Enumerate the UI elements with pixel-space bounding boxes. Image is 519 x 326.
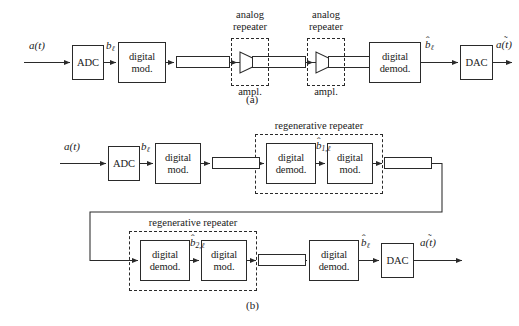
signal-output-a: ̃a(t)	[496, 38, 512, 50]
analog-repeater-1-title-line1: analog	[214, 9, 286, 21]
signal-b1hat: ̂b1,ℓ	[316, 139, 330, 153]
signal-badc-a: bℓ	[106, 39, 115, 53]
panel-b-caption: (b)	[246, 299, 259, 311]
dac-block-a[interactable]: DAC	[460, 45, 493, 80]
signal-output-a-text: a(t)	[496, 38, 512, 50]
repeater1-mod-line1-b: digital	[337, 152, 363, 164]
panel-a-caption: (a)	[246, 93, 258, 105]
channel-3-b	[258, 254, 306, 266]
repeater1-demod-block-b[interactable]: digital demod.	[266, 143, 316, 184]
signal-output-b-text: a(t)	[420, 236, 436, 248]
signal-b2hat-text: b	[190, 236, 196, 248]
channel-1-a	[176, 56, 230, 68]
channel-2-b	[384, 157, 432, 169]
digital-mod-block-a[interactable]: digital mod.	[118, 42, 166, 83]
signal-bhat-a: ̂bℓ	[425, 38, 434, 52]
signal-output-b: ̃a(t)	[420, 236, 436, 248]
digital-demod-rx-block-b[interactable]: digital demod.	[309, 240, 359, 281]
repeater1-mod-line2-b: mod.	[337, 164, 363, 176]
digital-mod-label-line2-a: mod.	[129, 63, 155, 75]
repeater1-demod-line2-b: demod.	[276, 164, 307, 176]
signal-b2hat-sub: 2,ℓ	[196, 241, 205, 250]
adc-block-a[interactable]: ADC	[72, 45, 104, 80]
repeater2-mod-line2-b: mod.	[211, 261, 237, 273]
digital-demod-label-line2-a: demod.	[380, 63, 411, 75]
signal-bhat-b-text: b	[361, 236, 367, 248]
repeater1-demod-line1-b: digital	[276, 152, 307, 164]
signal-input-b-text: a(t)	[64, 140, 80, 152]
repeater2-mod-line1-b: digital	[211, 249, 237, 261]
signal-b1hat-text: b	[316, 139, 322, 151]
channel-1-b	[212, 157, 260, 169]
dac-label-a: DAC	[466, 57, 488, 69]
regenerative-repeater-2-title: regenerative repeater	[129, 217, 257, 229]
figure-canvas: ADC digital mod. analog repeater analog …	[0, 0, 519, 326]
signal-b1hat-sub: 1,ℓ	[322, 144, 331, 153]
repeater1-mod-block-b[interactable]: digital mod.	[327, 143, 373, 184]
repeater2-demod-block-b[interactable]: digital demod.	[140, 240, 190, 281]
analog-repeater-1-box	[231, 38, 269, 86]
signal-badc-b-sub: ℓ	[147, 145, 150, 154]
repeater2-mod-block-b[interactable]: digital mod.	[201, 240, 247, 281]
adc-block-b[interactable]: ADC	[108, 146, 140, 181]
digital-demod-label-line1-a: digital	[380, 51, 411, 63]
digital-demod-block-a[interactable]: digital demod.	[369, 42, 421, 83]
digital-mod-label-line1-a: digital	[129, 51, 155, 63]
dac-label-b: DAC	[387, 255, 409, 267]
analog-repeater-2-title-line1: analog	[290, 9, 362, 21]
signal-input-a: a(t)	[29, 39, 45, 51]
signal-b2hat: ̂b2,ℓ	[190, 236, 204, 250]
analog-repeater-1-title-line2: repeater	[214, 21, 286, 33]
signal-badc-b: bℓ	[141, 140, 150, 154]
analog-repeater-2-title-line2: repeater	[290, 21, 362, 33]
adc-label-a: ADC	[77, 57, 99, 69]
digital-demod-rx-line1-b: digital	[319, 249, 350, 261]
digital-mod-tx-line1-b: digital	[165, 152, 191, 164]
repeater2-demod-line1-b: digital	[150, 249, 181, 261]
regenerative-repeater-1-title: regenerative repeater	[255, 120, 383, 132]
dac-block-b[interactable]: DAC	[381, 243, 414, 278]
analog-repeater-2-box	[307, 38, 345, 86]
signal-bhat-a-text: b	[425, 38, 431, 50]
signal-input-a-text: a(t)	[29, 39, 45, 51]
analog-repeater-2-sublabel: ampl.	[290, 86, 362, 98]
repeater2-demod-line2-b: demod.	[150, 261, 181, 273]
analog-repeater-1-title: analog repeater	[214, 9, 286, 32]
digital-mod-tx-line2-b: mod.	[165, 164, 191, 176]
adc-label-b: ADC	[113, 158, 135, 170]
analog-repeater-2-title: analog repeater	[290, 9, 362, 32]
signal-input-b: a(t)	[64, 140, 80, 152]
signal-badc-a-sub: ℓ	[112, 44, 115, 53]
digital-mod-tx-block-b[interactable]: digital mod.	[155, 143, 201, 184]
signal-bhat-b: ̂bℓ	[361, 236, 370, 250]
digital-demod-rx-line2-b: demod.	[319, 261, 350, 273]
